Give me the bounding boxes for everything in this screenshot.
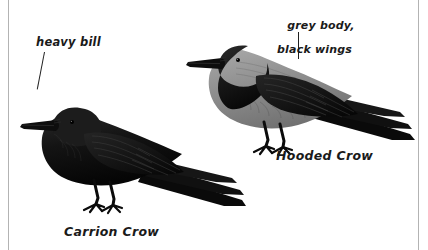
caption-hooded-crow: Hooded Crow [276, 148, 373, 163]
page-rule-right [418, 0, 419, 250]
page-rule-left [8, 0, 9, 250]
annotation-grey-body-line1: grey body, [287, 19, 355, 32]
annotation-heavy-bill: heavy bill [36, 36, 101, 48]
annotation-grey-body-line2: black wings [271, 44, 355, 56]
caption-carrion-crow: Carrion Crow [64, 224, 159, 239]
annotation-grey-body-black-wings: grey body, black wings [271, 8, 355, 79]
illustration-page: heavy bill grey body, black wings Carrio… [0, 0, 428, 250]
